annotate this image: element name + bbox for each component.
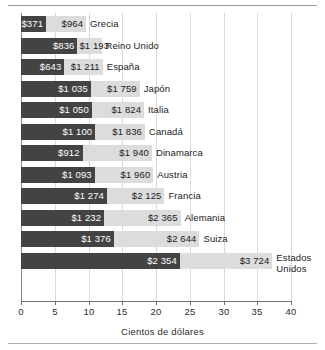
category-label: Grecia <box>90 16 119 32</box>
bar-row: $1 093$1 960Austria <box>0 167 325 183</box>
x-tick-40 <box>291 301 292 305</box>
dark-bar-value-label: $1 274 <box>21 188 104 204</box>
plot-area: $371$964Grecia$836$1 193Reino Unido$643$… <box>0 0 325 350</box>
category-label: Alemania <box>185 210 225 226</box>
x-tick-label-40: 40 <box>276 306 306 317</box>
x-axis-label: Cientos de dólares <box>0 326 325 337</box>
light-bar-value-label: $1 824 <box>94 102 141 118</box>
light-bar-value-label: $1 940 <box>85 145 149 161</box>
light-bar-value-label: $2 365 <box>106 210 177 226</box>
x-tick-label-20: 20 <box>141 306 171 317</box>
bar-row: $1 050$1 824Italia <box>0 102 325 118</box>
dark-bar-value-label: $643 <box>21 59 61 75</box>
dark-bar-value-label: $1 093 <box>21 167 92 183</box>
bar-row: $912$1 940Dinamarca <box>0 145 325 161</box>
bar-row: $2 354$3 724EstadosUnidos <box>0 253 325 269</box>
bar-row: $1 035$1 759Japón <box>0 81 325 97</box>
x-tick-5 <box>55 301 56 305</box>
x-tick-label-15: 15 <box>107 306 137 317</box>
x-tick-20 <box>156 301 157 305</box>
x-tick-10 <box>89 301 90 305</box>
category-label: España <box>107 59 140 75</box>
light-bar-value-label: $2 125 <box>109 188 161 204</box>
category-label: Italia <box>148 102 169 118</box>
x-tick-label-5: 5 <box>40 306 70 317</box>
x-tick-15 <box>122 301 123 305</box>
x-tick-30 <box>224 301 225 305</box>
category-label: Dinamarca <box>156 145 203 161</box>
category-label: Austria <box>157 167 187 183</box>
dark-bar-value-label: $912 <box>21 145 80 161</box>
dark-bar-value-label: $1 100 <box>21 124 92 140</box>
light-bar-value-label: $3 724 <box>182 253 269 269</box>
light-bar-value-label: $2 644 <box>116 231 197 247</box>
dark-bar-value-label: $1 035 <box>21 81 88 97</box>
bar-row: $1 376$2 644Suiza <box>0 231 325 247</box>
chart-figure: $371$964Grecia$836$1 193Reino Unido$643$… <box>0 0 325 350</box>
light-bar-value-label: $1 960 <box>97 167 151 183</box>
x-tick-label-30: 30 <box>209 306 239 317</box>
dark-bar-value-label: $2 354 <box>21 253 177 269</box>
category-label: Reino Unido <box>106 38 159 54</box>
x-tick-0 <box>21 301 22 305</box>
dark-bar-value-label: $1 376 <box>21 231 111 247</box>
light-bar-value-label: $1 759 <box>93 81 137 97</box>
light-bar-value-label: $1 211 <box>66 59 99 75</box>
category-label: Canadá <box>149 124 183 140</box>
bar-row: $1 232$2 365Alemania <box>0 210 325 226</box>
x-tick-label-0: 0 <box>6 306 36 317</box>
x-tick-25 <box>190 301 191 305</box>
dark-bar-value-label: $836 <box>21 38 74 54</box>
dark-bar-value-label: $371 <box>21 16 43 32</box>
dark-bar-value-label: $1 232 <box>21 210 101 226</box>
x-tick-label-25: 25 <box>175 306 205 317</box>
category-label: Suiza <box>203 231 227 247</box>
bar-row: $643$1 211España <box>0 59 325 75</box>
light-bar-value-label: $1 836 <box>97 124 142 140</box>
category-label: Japón <box>144 81 170 97</box>
bar-row: $1 100$1 836Canadá <box>0 124 325 140</box>
dark-bar-value-label: $1 050 <box>21 102 89 118</box>
light-bar-value-label: $1 193 <box>79 38 98 54</box>
x-tick-35 <box>257 301 258 305</box>
bar-row: $836$1 193Reino Unido <box>0 38 325 54</box>
category-label: Francia <box>168 188 200 204</box>
light-bar-value-label: $964 <box>48 16 83 32</box>
bar-row: $371$964Grecia <box>0 16 325 32</box>
x-tick-label-35: 35 <box>242 306 272 317</box>
category-label: EstadosUnidos <box>276 252 311 276</box>
bar-row: $1 274$2 125Francia <box>0 188 325 204</box>
x-tick-label-10: 10 <box>74 306 104 317</box>
